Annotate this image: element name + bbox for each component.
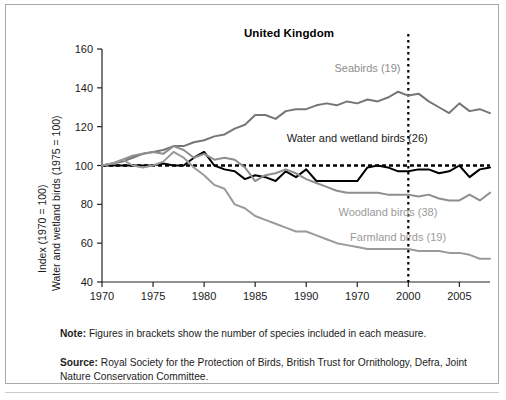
source-row: Source: Royal Society for the Protection… (60, 356, 490, 385)
y-axis-tick-label: 120 (75, 121, 93, 133)
source-text: Royal Society for the Protection of Bird… (60, 357, 467, 383)
x-axis-tick-label: 1985 (243, 290, 267, 302)
x-axis-tick-label: 1970 (90, 290, 114, 302)
line-chart: 4060801001201401601970197519801985199019… (6, 5, 500, 310)
x-axis-tick-label: 1970 (345, 290, 369, 302)
series-line-woodland-birds (102, 146, 490, 200)
note-text: Figures in brackets show the number of s… (89, 328, 427, 339)
note-row: Note: Figures in brackets show the numbe… (60, 327, 490, 342)
series-annotation: Water and wetland birds (26) (287, 132, 428, 144)
x-axis-tick-label: 2005 (447, 290, 471, 302)
y-axis-tick-label: 100 (75, 160, 93, 172)
source-label: Source: (60, 357, 98, 368)
figure-page: United Kingdom Index (1970 = 100) Water … (0, 0, 506, 400)
x-axis-tick-label: 1990 (294, 290, 318, 302)
x-axis-tick-label: 1975 (141, 290, 165, 302)
y-axis-tick-label: 60 (81, 237, 93, 249)
note-label: Note: (60, 328, 86, 339)
y-axis-tick-label: 40 (81, 276, 93, 288)
bottom-divider (5, 392, 499, 393)
series-annotation: Seabirds (19) (334, 62, 400, 74)
series-line-seabirds (102, 92, 490, 166)
series-annotation: Farmland birds (19) (350, 231, 446, 243)
y-axis-tick-label: 140 (75, 82, 93, 94)
series-annotation: Woodland birds (38) (338, 206, 437, 218)
figure-frame: United Kingdom Index (1970 = 100) Water … (5, 4, 499, 384)
x-axis-tick-label: 1980 (192, 290, 216, 302)
x-axis-tick-label: 2000 (396, 290, 420, 302)
figure-notes: Note: Figures in brackets show the numbe… (60, 327, 490, 385)
y-axis-tick-label: 160 (75, 43, 93, 55)
y-axis-tick-label: 80 (81, 198, 93, 210)
chart-region: United Kingdom Index (1970 = 100) Water … (6, 5, 500, 310)
